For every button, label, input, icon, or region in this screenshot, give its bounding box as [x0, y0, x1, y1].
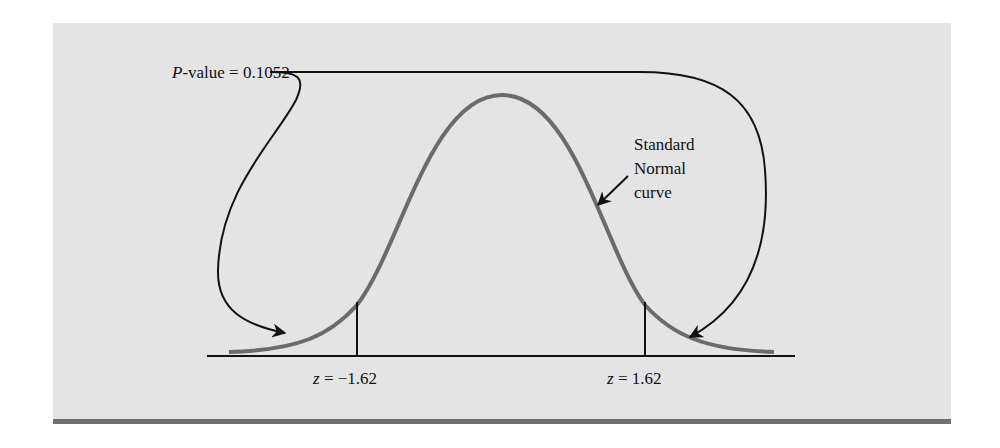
z-label-left: z = −1.62 [312, 369, 377, 388]
figure-panel [53, 23, 951, 421]
p-value-label-p: P [171, 63, 182, 82]
curve-label-line2: Normal [634, 159, 686, 178]
panel-bottom-border [53, 419, 951, 424]
z-label-right: z = 1.62 [606, 369, 661, 388]
curve-label-line1: Standard [634, 135, 695, 154]
p-value-figure: P-value = 0.1052 Standard Normal curve z… [0, 0, 1000, 448]
curve-label-line3: curve [634, 183, 672, 202]
